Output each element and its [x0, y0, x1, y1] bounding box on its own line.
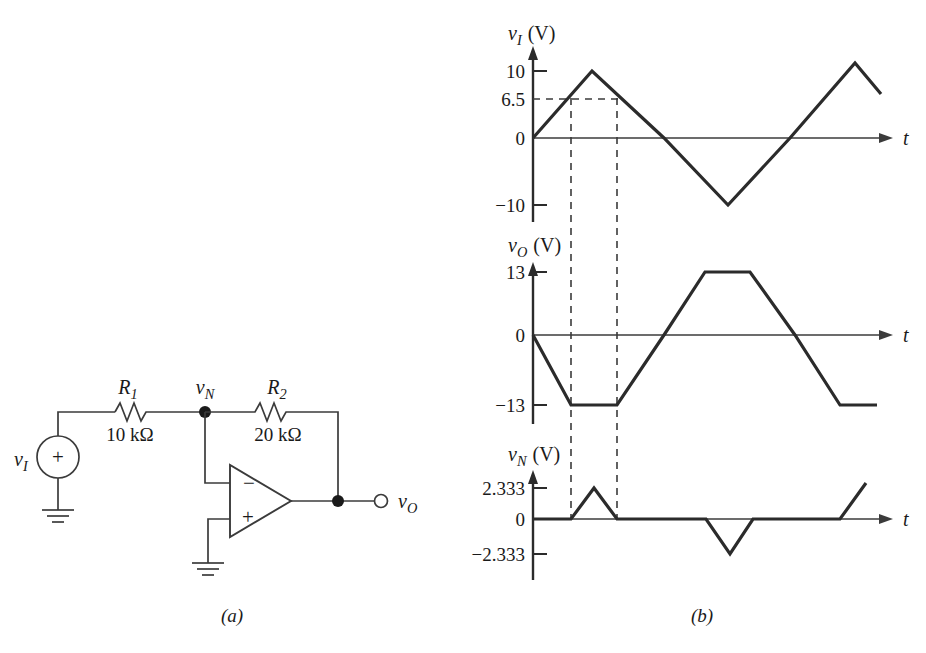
r2-value: 20 kΩ [254, 424, 301, 445]
opamp-symbol [230, 465, 291, 537]
wire-noninverting-to-ground [208, 519, 230, 563]
plot-vo-y-arrow [528, 262, 538, 276]
ground-symbol-source [42, 510, 74, 522]
r2-label: R2 [266, 376, 286, 402]
plot-vn-ticklabel-neg: −2.333 [472, 544, 525, 565]
plot-vo-x-axis-label: t [903, 324, 909, 346]
plot-vi-y-arrow [528, 46, 538, 60]
plot-vo-ticklabel-13: 13 [506, 262, 525, 283]
plot-vn-axis-label: vN(V) [508, 443, 560, 469]
figure-container: + vI R1 10 kΩ vN R2 20 kΩ [0, 0, 926, 653]
circuit-diagram: + vI R1 10 kΩ vN R2 20 kΩ [14, 376, 418, 627]
plot-vo-waveform [533, 272, 877, 405]
waveform-plots: vI(V) t 10 6.5 0 −10 [472, 22, 909, 627]
node-vn-label: vN [196, 376, 216, 402]
caption-a: (a) [221, 605, 243, 627]
plot-vi-ticklabel-6p5: 6.5 [501, 89, 525, 110]
source-polarity-plus: + [52, 445, 64, 469]
r1-value: 10 kΩ [106, 424, 153, 445]
wire-vn-to-inverting-input [205, 412, 230, 483]
output-label: vO [398, 490, 418, 516]
source-label: vI [14, 448, 29, 474]
r1-label: R1 [117, 376, 137, 402]
plot-vi-ticklabel-10: 10 [506, 61, 525, 82]
plot-vn-ticklabel-pos: 2.333 [482, 478, 525, 499]
node-output-dot [332, 495, 344, 507]
opamp-inverting-sign: − [243, 471, 255, 495]
opamp-noninverting-sign: + [242, 505, 254, 529]
plot-vn-y-arrow [528, 470, 538, 484]
plot-vo: vO(V) t 13 0 −13 [495, 234, 909, 424]
plot-vo-ticklabel-0: 0 [516, 325, 526, 346]
plot-vn-ticklabel-0: 0 [516, 509, 526, 530]
resistor-r2-feedback [205, 403, 338, 501]
plot-vn: vN(V) t 2.333 0 −2.333 [472, 443, 909, 580]
plot-vo-ticklabel-neg13: −13 [495, 395, 525, 416]
figure-svg: + vI R1 10 kΩ vN R2 20 kΩ [0, 0, 926, 653]
plot-vo-x-arrow [879, 330, 893, 340]
plot-vn-x-axis-label: t [903, 508, 909, 530]
plot-vn-x-arrow [879, 514, 893, 524]
plot-vi-x-axis-label: t [903, 127, 909, 149]
plot-vi-waveform [533, 63, 881, 205]
plot-vi-ticklabel-neg10: −10 [495, 195, 525, 216]
output-terminal-circle [375, 495, 388, 508]
plot-vi-ticklabel-0: 0 [516, 128, 526, 149]
plot-vo-axis-label: vO(V) [508, 234, 561, 260]
caption-b: (b) [691, 605, 713, 627]
plot-vi: vI(V) t 10 6.5 0 −10 [495, 22, 909, 222]
plot-vi-x-arrow [879, 133, 893, 143]
resistor-r1 [115, 403, 205, 421]
ground-symbol-opamp [192, 563, 224, 575]
plot-vi-axis-label: vI(V) [508, 22, 555, 48]
